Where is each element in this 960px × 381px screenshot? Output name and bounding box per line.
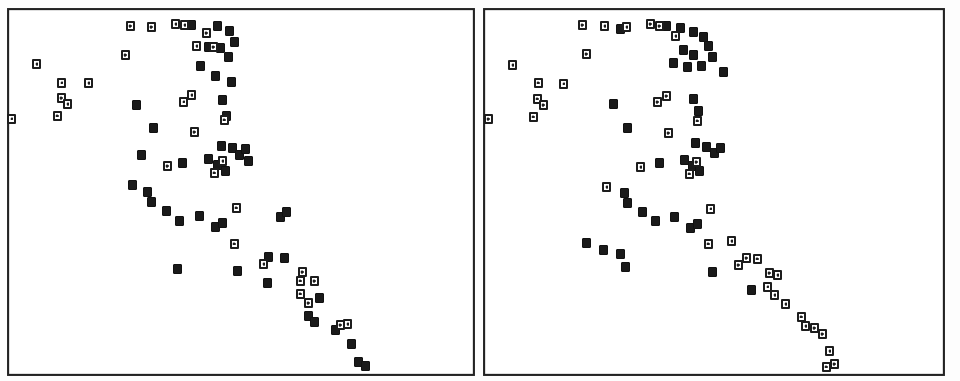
data-point-open-square <box>818 329 827 339</box>
data-point-open-square <box>259 259 268 269</box>
data-point-open-square <box>559 79 568 89</box>
data-point-open-square <box>171 19 180 29</box>
plot-area <box>7 8 475 376</box>
data-point-filled-square <box>708 267 717 277</box>
data-point-open-square <box>600 21 609 31</box>
data-point-open-square <box>180 20 189 30</box>
data-point-filled-square <box>195 211 204 221</box>
data-point-open-square <box>830 359 839 369</box>
data-point-filled-square <box>221 166 230 176</box>
right-scatter-panel <box>483 8 945 376</box>
data-point-open-square <box>163 161 172 171</box>
data-point-open-square <box>801 321 810 331</box>
data-point-open-square <box>147 22 156 32</box>
data-point-open-square <box>622 22 631 32</box>
data-point-open-square <box>57 78 66 88</box>
data-point-open-square <box>190 127 199 137</box>
data-point-open-square <box>343 319 352 329</box>
data-point-open-square <box>192 41 201 51</box>
data-point-open-square <box>742 253 751 263</box>
data-point-open-square <box>582 49 591 59</box>
data-point-filled-square <box>280 253 289 263</box>
data-point-filled-square <box>670 212 679 222</box>
data-point-open-square <box>662 91 671 101</box>
data-point-open-square <box>7 114 16 124</box>
data-point-open-square <box>822 362 831 372</box>
data-point-open-square <box>296 276 305 286</box>
left-scatter-panel <box>7 8 475 376</box>
data-point-open-square <box>304 298 313 308</box>
data-point-filled-square <box>230 37 239 47</box>
data-point-filled-square <box>217 141 226 151</box>
data-point-open-square <box>187 90 196 100</box>
data-point-filled-square <box>693 219 702 229</box>
data-point-open-square <box>539 100 548 110</box>
data-point-open-square <box>693 116 702 126</box>
data-point-filled-square <box>689 27 698 37</box>
data-point-filled-square <box>582 238 591 248</box>
data-point-filled-square <box>263 278 272 288</box>
data-point-filled-square <box>669 58 678 68</box>
data-point-filled-square <box>149 123 158 133</box>
data-point-open-square <box>508 60 517 70</box>
data-point-filled-square <box>178 158 187 168</box>
data-point-open-square <box>484 114 493 124</box>
data-point-filled-square <box>233 266 242 276</box>
data-point-filled-square <box>196 61 205 71</box>
data-point-open-square <box>534 78 543 88</box>
data-point-filled-square <box>315 293 324 303</box>
data-point-open-square <box>692 157 701 167</box>
data-point-filled-square <box>204 154 213 164</box>
data-point-filled-square <box>683 62 692 72</box>
data-point-open-square <box>53 111 62 121</box>
data-point-open-square <box>602 182 611 192</box>
data-point-open-square <box>218 156 227 166</box>
data-point-filled-square <box>623 123 632 133</box>
data-point-open-square <box>210 168 219 178</box>
data-point-open-square <box>646 19 655 29</box>
data-point-filled-square <box>211 71 220 81</box>
data-point-filled-square <box>282 207 291 217</box>
data-point-open-square <box>220 115 229 125</box>
data-point-filled-square <box>694 106 703 116</box>
data-point-filled-square <box>128 180 137 190</box>
data-point-filled-square <box>137 150 146 160</box>
plot-area <box>483 8 945 376</box>
data-point-open-square <box>653 97 662 107</box>
data-point-filled-square <box>689 94 698 104</box>
data-point-open-square <box>296 289 305 299</box>
data-point-open-square <box>578 20 587 30</box>
data-point-open-square <box>825 346 834 356</box>
data-point-open-square <box>209 42 218 52</box>
data-point-filled-square <box>704 41 713 51</box>
data-point-filled-square <box>147 197 156 207</box>
data-point-open-square <box>636 162 645 172</box>
data-point-filled-square <box>716 143 725 153</box>
data-point-filled-square <box>679 45 688 55</box>
data-point-filled-square <box>655 158 664 168</box>
data-point-filled-square <box>747 285 756 295</box>
data-point-filled-square <box>616 249 625 259</box>
data-point-open-square <box>126 21 135 31</box>
data-point-open-square <box>230 239 239 249</box>
data-point-open-square <box>727 236 736 246</box>
data-point-filled-square <box>697 61 706 71</box>
data-point-open-square <box>232 203 241 213</box>
data-point-filled-square <box>621 262 630 272</box>
data-point-open-square <box>704 239 713 249</box>
data-point-filled-square <box>599 245 608 255</box>
data-point-filled-square <box>623 198 632 208</box>
data-point-filled-square <box>651 216 660 226</box>
data-point-filled-square <box>162 206 171 216</box>
data-point-open-square <box>32 59 41 69</box>
data-point-open-square <box>664 128 673 138</box>
data-point-filled-square <box>310 317 319 327</box>
data-point-open-square <box>685 169 694 179</box>
data-point-open-square <box>84 78 93 88</box>
data-point-open-square <box>753 254 762 264</box>
data-point-open-square <box>310 276 319 286</box>
figure-canvas <box>0 0 960 381</box>
data-point-filled-square <box>218 218 227 228</box>
data-point-filled-square <box>213 21 222 31</box>
data-point-open-square <box>63 99 72 109</box>
